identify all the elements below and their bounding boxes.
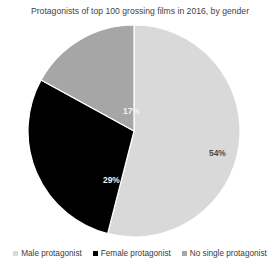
pie-plot-area: 54% 29% 17% [28, 24, 240, 238]
square-swatch-icon [93, 251, 98, 256]
legend-item-male-protagonist[interactable]: Male protagonist [13, 249, 82, 258]
pie-chart-figure: Protagonists of top 100 grossing films i… [0, 0, 280, 264]
pie-slice-label-female-protagonist: 29% [103, 175, 120, 185]
chart-title: Protagonists of top 100 grossing films i… [0, 6, 280, 16]
chart-legend: Male protagonist Female protagonist No s… [0, 249, 280, 258]
legend-label-female-protagonist: Female protagonist [101, 249, 171, 258]
pie-slices [28, 25, 240, 237]
legend-label-no-single-protagonist: No single protagonist [190, 249, 267, 258]
legend-item-female-protagonist[interactable]: Female protagonist [93, 249, 171, 258]
legend-label-male-protagonist: Male protagonist [21, 249, 82, 258]
pie-slice-label-male-protagonist: 54% [209, 148, 226, 158]
square-swatch-icon [13, 251, 18, 256]
legend-item-no-single-protagonist[interactable]: No single protagonist [182, 249, 267, 258]
pie-slice-label-no-single-protagonist: 17% [123, 106, 140, 116]
square-swatch-icon [182, 251, 187, 256]
pie-svg [28, 24, 240, 238]
